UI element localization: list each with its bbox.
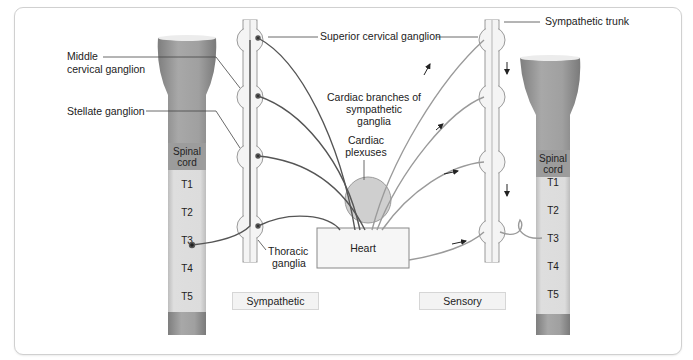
segment-t2-left: T2 — [181, 207, 193, 218]
sympathetic-fibers — [190, 36, 366, 248]
spinal-cord-label-left: Spinal — [173, 146, 201, 157]
svg-text:cord: cord — [543, 164, 562, 175]
svg-text:cord: cord — [177, 157, 196, 168]
stellate-ganglion-label: Stellate ganglion — [67, 105, 145, 117]
segment-t4-left: T4 — [181, 263, 193, 274]
right-sympathetic-trunk — [479, 20, 505, 262]
sympathetic-panel-label: Sympathetic — [232, 292, 319, 310]
segment-t2-right: T2 — [547, 205, 559, 216]
thoracic-ganglia-label: Thoracic — [268, 245, 308, 257]
svg-text:cervical ganglion: cervical ganglion — [67, 63, 145, 75]
svg-text:sympathetic: sympathetic — [346, 103, 402, 115]
svg-text:ganglia: ganglia — [272, 257, 306, 269]
segment-t5-left: T5 — [181, 291, 193, 302]
segment-t1-left: T1 — [181, 179, 193, 190]
sympathetic-trunk-label: Sympathetic trunk — [545, 15, 630, 27]
cardiac-branches-label: Cardiac branches of — [327, 91, 421, 103]
svg-text:plexuses: plexuses — [345, 146, 386, 158]
superior-cervical-ganglion-label: Superior cervical ganglion — [320, 30, 441, 42]
cardiac-plexuses-label: Cardiac — [348, 134, 384, 146]
sensory-fibers — [372, 40, 542, 260]
middle-cervical-ganglion-label: Middle — [67, 50, 98, 62]
segment-t5-right: T5 — [547, 289, 559, 300]
heart-label: Heart — [350, 242, 376, 254]
segment-t3-right: T3 — [547, 233, 559, 244]
svg-text:ganglia: ganglia — [357, 115, 391, 127]
segment-t1-right: T1 — [547, 177, 559, 188]
sensory-panel-label: Sensory — [419, 292, 506, 310]
segment-t4-right: T4 — [547, 261, 559, 272]
spinal-cord-label-right: Spinal — [539, 153, 567, 164]
cardiac-innervation-diagram: Spinal cord T1 T2 T3 T4 T5 Spinal cord T… — [0, 0, 693, 360]
